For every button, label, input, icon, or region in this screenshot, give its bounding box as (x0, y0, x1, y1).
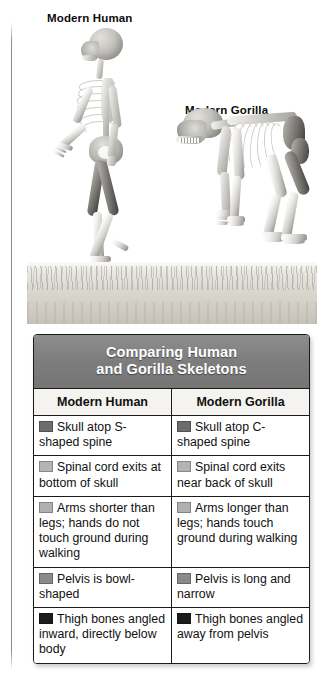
table-cell-gorilla: Spinal cord exits near back of skull (172, 456, 310, 496)
comparison-table-card: Comparing Human and Gorilla Skeletons Mo… (33, 334, 310, 664)
color-swatch-icon (39, 613, 53, 624)
table-row: Thigh bones angled inward, directly belo… (34, 608, 309, 663)
table-row: Spinal cord exits at bottom of skull Spi… (34, 456, 309, 496)
cell-content: Spinal cord exits at bottom of skull (39, 460, 166, 490)
table-cell-gorilla: Skull atop C-shaped spine (172, 416, 310, 456)
table-cell-gorilla: Pelvis is long and narrow (172, 567, 310, 607)
table-row: Arms shorter than legs; hands do not tou… (34, 496, 309, 567)
table-row: Pelvis is bowl-shaped Pelvis is long and… (34, 567, 309, 607)
cell-content: Arms shorter than legs; hands do not tou… (39, 501, 166, 562)
color-swatch-icon (39, 461, 53, 472)
color-swatch-icon (39, 421, 53, 432)
column-header-modern-gorilla: Modern Gorilla (172, 389, 310, 416)
cell-content: Pelvis is bowl-shaped (39, 572, 166, 602)
color-swatch-icon (177, 613, 191, 624)
cell-content: Thigh bones angled away from pelvis (177, 612, 304, 642)
grass-ground (27, 262, 317, 324)
table-cell-gorilla: Arms longer than legs; hands touch groun… (172, 496, 310, 567)
table-header-row: Modern Human Modern Gorilla (34, 389, 309, 416)
column-header-modern-human: Modern Human (34, 389, 172, 416)
cell-text: Thigh bones angled away from pelvis (177, 612, 303, 641)
table-cell-human: Thigh bones angled inward, directly belo… (34, 608, 172, 663)
table-body: Skull atop S-shaped spine Skull atop C-s… (34, 416, 309, 663)
color-swatch-icon (177, 461, 191, 472)
table-title-line-1: Comparing Human (40, 344, 303, 361)
cell-content: Thigh bones angled inward, directly belo… (39, 612, 166, 658)
cell-content: Skull atop C-shaped spine (177, 420, 304, 450)
cell-content: Pelvis is long and narrow (177, 572, 304, 602)
cell-text: Arms longer than legs; hands touch groun… (177, 501, 297, 545)
table-title: Comparing Human and Gorilla Skeletons (34, 335, 309, 388)
page-rule (11, 22, 12, 670)
table-title-line-2: and Gorilla Skeletons (40, 361, 303, 378)
gorilla-skeleton-figure (175, 98, 317, 270)
cell-content: Spinal cord exits near back of skull (177, 460, 304, 490)
cell-content: Arms longer than legs; hands touch groun… (177, 501, 304, 547)
color-swatch-icon (39, 573, 53, 584)
table-cell-human: Arms shorter than legs; hands do not tou… (34, 496, 172, 567)
cell-content: Skull atop S-shaped spine (39, 420, 166, 450)
human-skeleton-figure (67, 28, 177, 268)
figure-label-modern-human: Modern Human (47, 12, 133, 24)
cell-text: Pelvis is bowl-shaped (39, 572, 135, 601)
table-cell-gorilla: Thigh bones angled away from pelvis (172, 608, 310, 663)
color-swatch-icon (177, 573, 191, 584)
table-cell-human: Pelvis is bowl-shaped (34, 567, 172, 607)
table-cell-human: Spinal cord exits at bottom of skull (34, 456, 172, 496)
cell-text: Spinal cord exits at bottom of skull (39, 460, 161, 489)
table-row: Skull atop S-shaped spine Skull atop C-s… (34, 416, 309, 456)
cell-text: Spinal cord exits near back of skull (177, 460, 285, 489)
color-swatch-icon (177, 502, 191, 513)
color-swatch-icon (39, 502, 53, 513)
cell-text: Thigh bones angled inward, directly belo… (39, 612, 165, 656)
cell-text: Pelvis is long and narrow (177, 572, 291, 601)
color-swatch-icon (177, 421, 191, 432)
cell-text: Arms shorter than legs; hands do not tou… (39, 501, 155, 561)
skeleton-illustration: Modern Human Modern Gorilla (27, 6, 317, 324)
comparison-table: Modern Human Modern Gorilla Skull atop S… (34, 388, 309, 663)
table-cell-human: Skull atop S-shaped spine (34, 416, 172, 456)
